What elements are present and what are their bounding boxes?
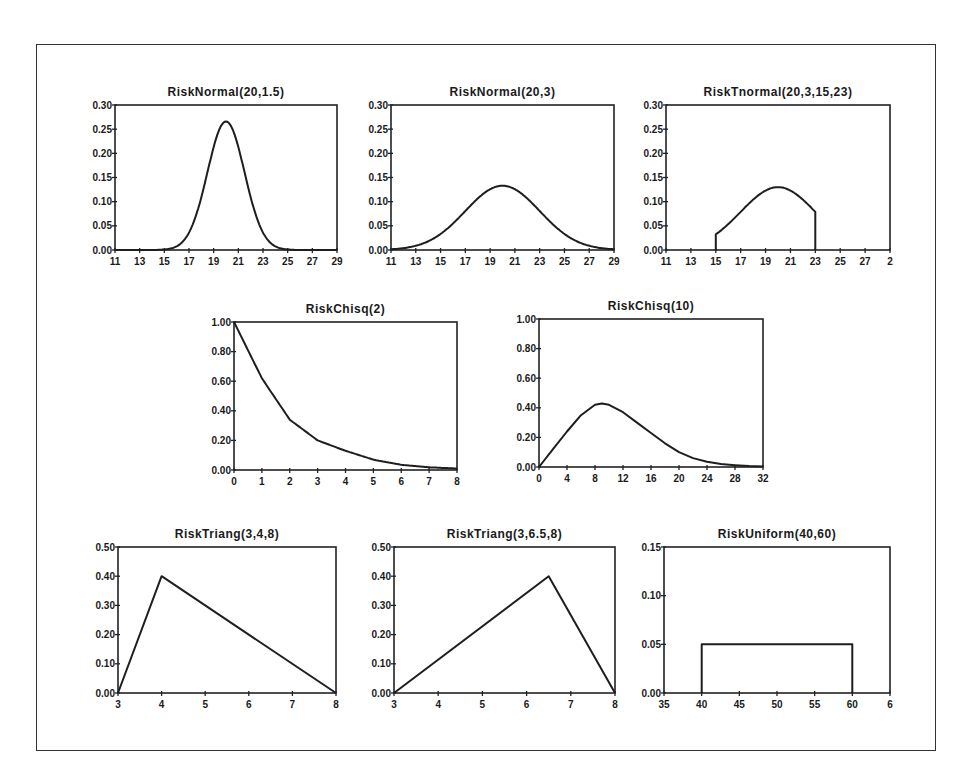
x-tick-label: 19 xyxy=(760,256,772,267)
x-tick-label: 6 xyxy=(524,699,530,710)
x-tick-label: 15 xyxy=(159,256,171,267)
x-tick-label: 15 xyxy=(435,256,447,267)
x-tick-label: 60 xyxy=(847,699,859,710)
x-tick-label: 15 xyxy=(710,256,722,267)
x-tick-label: 21 xyxy=(785,256,797,267)
y-tick-label: 0.20 xyxy=(93,148,113,159)
y-tick-label: 0.20 xyxy=(212,435,232,446)
density-curve xyxy=(716,187,816,250)
y-tick-label: 0.05 xyxy=(369,220,389,231)
x-tick-label: 17 xyxy=(735,256,747,267)
x-tick-label: 0 xyxy=(231,476,237,487)
x-tick-label: 4 xyxy=(343,476,349,487)
x-tick-label: 13 xyxy=(685,256,697,267)
chart-triang-3-4-8: RiskTriang(3,4,8)0.000.100.200.300.400.5… xyxy=(96,527,340,710)
x-tick-label: 7 xyxy=(426,476,432,487)
y-tick-label: 0.80 xyxy=(212,346,232,357)
y-tick-label: 0.40 xyxy=(517,402,537,413)
x-tick-label: 20 xyxy=(673,473,685,484)
density-curve xyxy=(702,644,853,693)
x-tick-label: 7 xyxy=(290,699,296,710)
x-tick-label: 32 xyxy=(757,473,769,484)
chart-triang-3-6.5-8: RiskTriang(3,6.5,8)0.000.100.200.300.400… xyxy=(372,527,619,710)
y-tick-label: 0.05 xyxy=(644,220,664,231)
y-tick-label: 0.20 xyxy=(96,629,116,640)
plot-area xyxy=(234,322,457,470)
y-tick-label: 0.00 xyxy=(372,688,392,699)
x-tick-label: 11 xyxy=(661,256,672,267)
x-tick-label: 17 xyxy=(183,256,195,267)
y-tick-label: 0.40 xyxy=(212,405,232,416)
x-tick-label: 2 xyxy=(887,256,893,267)
y-tick-label: 0.00 xyxy=(212,465,232,476)
density-curve xyxy=(115,122,337,251)
y-tick-label: 0.15 xyxy=(644,172,664,183)
plot-area xyxy=(664,547,890,693)
x-tick-label: 40 xyxy=(696,699,708,710)
y-tick-label: 0.05 xyxy=(93,220,113,231)
y-tick-label: 0.10 xyxy=(642,590,662,601)
y-tick-label: 0.15 xyxy=(642,542,662,553)
x-tick-label: 4 xyxy=(435,699,441,710)
x-tick-label: 5 xyxy=(202,699,208,710)
y-tick-label: 0.25 xyxy=(369,124,389,135)
y-tick-label: 0.10 xyxy=(96,658,116,669)
chart-uniform-40-60: RiskUniform(40,60)0.000.050.100.15354045… xyxy=(642,527,894,710)
chart-title: RiskNormal(20,3) xyxy=(449,85,555,99)
x-tick-label: 0 xyxy=(536,473,542,484)
x-tick-label: 8 xyxy=(612,699,618,710)
y-tick-label: 0.60 xyxy=(517,373,537,384)
x-tick-label: 6 xyxy=(246,699,252,710)
y-tick-label: 0.20 xyxy=(372,629,392,640)
y-tick-label: 0.30 xyxy=(372,600,392,611)
x-tick-label: 17 xyxy=(460,256,472,267)
y-tick-label: 0.50 xyxy=(372,542,392,553)
x-tick-label: 11 xyxy=(386,256,397,267)
x-tick-label: 8 xyxy=(592,473,598,484)
chart-normal-20-3: RiskNormal(20,3)0.000.050.100.150.200.25… xyxy=(369,85,620,267)
y-tick-label: 0.30 xyxy=(644,100,664,111)
y-tick-label: 0.00 xyxy=(644,245,664,256)
y-tick-label: 0.15 xyxy=(93,172,113,183)
chart-normal-20-1.5: RiskNormal(20,1.5)0.000.050.100.150.200.… xyxy=(93,85,343,267)
chart-title: RiskNormal(20,1.5) xyxy=(167,85,284,99)
x-tick-label: 6 xyxy=(398,476,404,487)
x-tick-label: 7 xyxy=(568,699,574,710)
x-tick-label: 27 xyxy=(584,256,596,267)
density-curve xyxy=(539,403,763,467)
density-curve xyxy=(118,576,336,693)
x-tick-label: 55 xyxy=(809,699,821,710)
plot-area xyxy=(539,319,763,467)
x-tick-label: 11 xyxy=(110,256,121,267)
x-tick-label: 25 xyxy=(835,256,847,267)
chart-title: RiskChisq(2) xyxy=(306,302,385,316)
x-tick-label: 4 xyxy=(564,473,570,484)
y-tick-label: 0.80 xyxy=(517,343,537,354)
x-tick-label: 27 xyxy=(860,256,872,267)
density-curve xyxy=(234,322,457,469)
x-tick-label: 3 xyxy=(115,699,121,710)
x-tick-label: 19 xyxy=(485,256,497,267)
x-tick-label: 1 xyxy=(259,476,265,487)
y-tick-label: 0.40 xyxy=(372,571,392,582)
chart-tnormal-20-3-15-23: RiskTnormal(20,3,15,23)0.000.050.100.150… xyxy=(644,85,894,267)
chart-title: RiskTriang(3,4,8) xyxy=(175,527,280,541)
x-tick-label: 4 xyxy=(159,699,165,710)
y-tick-label: 0.40 xyxy=(96,571,116,582)
chart-title: RiskUniform(40,60) xyxy=(718,527,836,541)
y-tick-label: 0.25 xyxy=(93,124,113,135)
x-tick-label: 13 xyxy=(134,256,146,267)
y-tick-label: 0.10 xyxy=(369,196,389,207)
plot-area xyxy=(394,547,615,693)
x-tick-label: 23 xyxy=(534,256,546,267)
y-tick-label: 0.30 xyxy=(369,100,389,111)
y-tick-label: 0.60 xyxy=(212,376,232,387)
x-tick-label: 23 xyxy=(810,256,822,267)
chart-title: RiskTriang(3,6.5,8) xyxy=(447,527,563,541)
x-tick-label: 13 xyxy=(410,256,422,267)
density-curve xyxy=(394,576,615,693)
y-tick-label: 0.30 xyxy=(93,100,113,111)
x-tick-label: 50 xyxy=(771,699,783,710)
x-tick-label: 29 xyxy=(608,256,620,267)
x-tick-label: 21 xyxy=(233,256,245,267)
